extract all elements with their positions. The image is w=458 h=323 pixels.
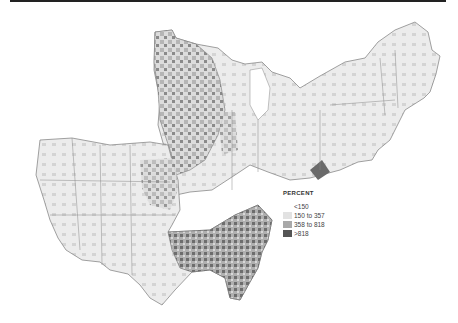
map-region-midwest-northeast — [154, 22, 440, 195]
legend-swatch-150-357 — [283, 212, 292, 219]
legend-label: <150 — [294, 203, 309, 210]
choropleth-map — [0, 0, 458, 323]
legend: PERCENT <150 150 to 357 358 to 818 >818 — [283, 190, 363, 238]
legend-item: >818 — [283, 229, 363, 237]
legend-title: PERCENT — [283, 190, 363, 196]
legend-label: 358 to 818 — [294, 221, 325, 228]
legend-label: 150 to 357 — [294, 212, 325, 219]
legend-swatch-lt150 — [283, 203, 292, 210]
legend-item: 150 to 357 — [283, 211, 363, 219]
legend-item: <150 — [283, 202, 363, 210]
legend-swatch-gt818 — [283, 230, 292, 237]
legend-item: 358 to 818 — [283, 220, 363, 228]
legend-label: >818 — [294, 230, 309, 237]
legend-swatch-358-818 — [283, 221, 292, 228]
